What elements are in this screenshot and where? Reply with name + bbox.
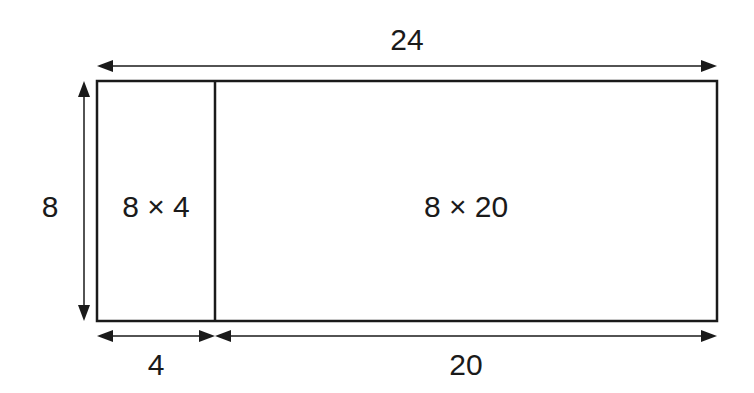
arrowhead-icon	[97, 60, 113, 72]
arrowhead-icon	[215, 330, 231, 342]
arrowhead-icon	[78, 305, 90, 321]
arrowhead-icon	[78, 81, 90, 97]
height-label: 8	[42, 192, 59, 222]
right-area-label: 8 × 20	[424, 192, 508, 222]
arrowhead-icon	[199, 330, 215, 342]
arrowhead-icon	[701, 330, 717, 342]
left-width-label: 4	[148, 350, 165, 380]
arrowhead-icon	[701, 60, 717, 72]
area-diagram	[0, 0, 754, 393]
total-width-label: 24	[390, 25, 423, 55]
outer-rectangle	[97, 81, 717, 321]
right-width-label: 20	[449, 350, 482, 380]
left-area-label: 8 × 4	[122, 192, 190, 222]
arrowhead-icon	[97, 330, 113, 342]
